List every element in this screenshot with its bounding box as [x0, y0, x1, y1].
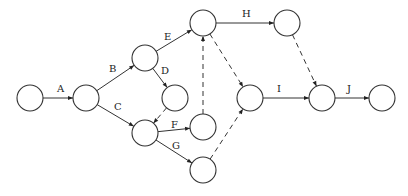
event-nodes: [17, 10, 395, 183]
activity-label: A: [56, 83, 65, 94]
event-node: [190, 157, 216, 183]
network-diagram: ABCDEFGHIJ: [0, 0, 408, 196]
event-node: [73, 85, 99, 111]
activity-arrow-e: [156, 30, 192, 52]
event-node: [162, 85, 188, 111]
event-node: [309, 85, 335, 111]
event-node: [190, 114, 216, 140]
activity-label: F: [171, 119, 178, 130]
dummy-arrow: [210, 109, 243, 159]
dummy-arrow: [210, 34, 243, 87]
activity-label: I: [277, 83, 281, 94]
activity-label: D: [161, 65, 169, 76]
dummy-arrow: [153, 108, 166, 123]
event-node: [237, 85, 263, 111]
event-node: [17, 85, 43, 111]
event-node: [190, 10, 216, 36]
dummy-arrow: [292, 35, 316, 86]
activity-label: G: [172, 140, 180, 151]
activity-label: E: [164, 31, 171, 42]
event-node: [369, 85, 395, 111]
activity-label: B: [109, 63, 116, 74]
event-node: [132, 120, 158, 146]
activity-label: C: [114, 101, 122, 112]
event-node: [274, 10, 300, 36]
activity-label: H: [242, 8, 251, 19]
event-node: [132, 45, 158, 71]
activity-label: J: [346, 83, 351, 94]
